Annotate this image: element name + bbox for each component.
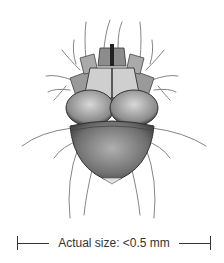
mite-illustration [0,0,224,222]
scale-bar-label: Actual size: <0.5 mm [53,236,175,250]
scale-bar-right-line [179,243,211,244]
scale-bar-left-line [17,243,49,244]
scale-bar: Actual size: <0.5 mm [17,236,211,252]
scale-bar-right-cap [210,236,211,250]
